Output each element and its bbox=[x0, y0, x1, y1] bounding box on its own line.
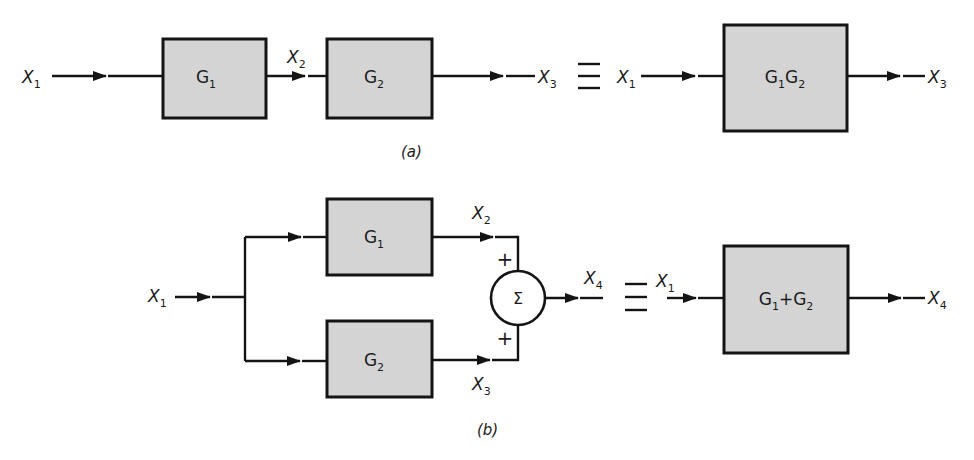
signal-label-x2: X2 bbox=[286, 47, 306, 71]
equivalence-symbol-a bbox=[578, 64, 600, 88]
part-b-equivalent-block: X1 G1+G2 X4 bbox=[655, 246, 947, 353]
caption-b: (b) bbox=[477, 421, 498, 439]
signal-label-x3-b: X3 bbox=[471, 374, 491, 398]
block-g1-b: G1 bbox=[327, 199, 432, 275]
part-a-series-connection: X1 G1 X2 G2 X3 bbox=[21, 39, 557, 118]
sigma-icon: Σ bbox=[513, 289, 523, 308]
block-diagram-canvas: X1 G1 X2 G2 X3 X1 G1G2 bbox=[0, 0, 974, 460]
block-g2: G2 bbox=[327, 39, 432, 118]
block-g1: G1 bbox=[163, 39, 266, 118]
caption-a: (a) bbox=[401, 143, 422, 161]
block-g1-plus-g2: G1+G2 bbox=[724, 246, 848, 353]
part-a-equivalent-block: X1 G1G2 X3 bbox=[616, 25, 947, 131]
signal-label-x4-equiv: X4 bbox=[927, 288, 947, 312]
equivalence-symbol-b bbox=[625, 284, 647, 310]
part-b-parallel-connection: X1 G1 G2 X2 X3 Σ + + bbox=[147, 199, 603, 398]
signal-label-x3: X3 bbox=[537, 67, 557, 91]
sign-plus-bottom: + bbox=[497, 326, 514, 350]
signal-label-x1-b: X1 bbox=[147, 286, 167, 310]
sign-plus-top: + bbox=[497, 247, 514, 271]
signal-label-x1-equiv: X1 bbox=[616, 67, 636, 91]
signal-label-x1: X1 bbox=[21, 67, 41, 91]
signal-label-x3-equiv: X3 bbox=[927, 67, 947, 91]
block-g2-b: G2 bbox=[327, 321, 432, 397]
signal-label-x2-b: X2 bbox=[471, 203, 491, 227]
block-g1g2: G1G2 bbox=[724, 25, 847, 131]
summing-junction: Σ bbox=[491, 271, 545, 325]
signal-label-x1-b-equiv: X1 bbox=[655, 271, 675, 295]
signal-label-x4-b: X4 bbox=[583, 268, 603, 292]
